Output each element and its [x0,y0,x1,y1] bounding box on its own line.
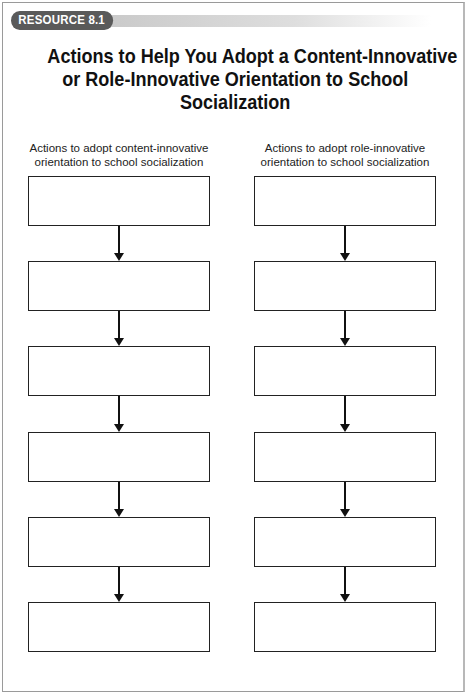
title-line-1: Actions to Help You Adopt a Content-Inno… [47,44,457,67]
column-heading-content-innovative: Actions to adopt content-innovative orie… [9,141,229,169]
action-box-content-innovative-3[interactable] [28,346,210,396]
action-box-role-innovative-1[interactable] [254,176,436,226]
action-box-content-innovative-5[interactable] [28,517,210,567]
arrow-connector [344,482,346,510]
action-box-role-innovative-3[interactable] [254,346,436,396]
arrow-down-icon [340,509,350,517]
arrow-connector [118,482,120,510]
page-title: Actions to Help You Adopt a Content-Inno… [14,44,457,113]
heading-line: Actions to adopt content-innovative [29,142,208,154]
action-box-content-innovative-1[interactable] [28,176,210,226]
arrow-connector [118,396,120,425]
action-box-role-innovative-6[interactable] [254,602,436,652]
arrow-connector [118,226,120,254]
resource-header: RESOURCE 8.1 [11,11,431,30]
arrow-connector [344,396,346,425]
action-box-role-innovative-4[interactable] [254,432,436,482]
arrow-down-icon [114,338,124,346]
action-box-role-innovative-5[interactable] [254,517,436,567]
title-line-3: Socialization [180,90,290,113]
arrow-down-icon [340,253,350,261]
heading-line: orientation to school socialization [261,156,430,168]
arrow-down-icon [114,253,124,261]
action-box-role-innovative-2[interactable] [254,261,436,311]
header-fade-bar [91,15,431,27]
arrow-down-icon [340,424,350,432]
heading-line: orientation to school socialization [35,156,204,168]
arrow-connector [118,311,120,339]
action-box-content-innovative-4[interactable] [28,432,210,482]
resource-label: RESOURCE 8.1 [11,11,113,30]
action-box-content-innovative-6[interactable] [28,602,210,652]
column-heading-role-innovative: Actions to adopt role-innovative orienta… [235,141,455,169]
arrow-down-icon [340,594,350,602]
arrow-down-icon [114,594,124,602]
action-box-content-innovative-2[interactable] [28,261,210,311]
arrow-down-icon [114,424,124,432]
title-line-2: or Role-Innovative Orientation to School [62,67,408,90]
heading-line: Actions to adopt role-innovative [265,142,425,154]
arrow-down-icon [340,338,350,346]
arrow-connector [344,567,346,595]
arrow-connector [344,226,346,254]
arrow-connector [118,567,120,595]
arrow-down-icon [114,509,124,517]
arrow-connector [344,311,346,339]
